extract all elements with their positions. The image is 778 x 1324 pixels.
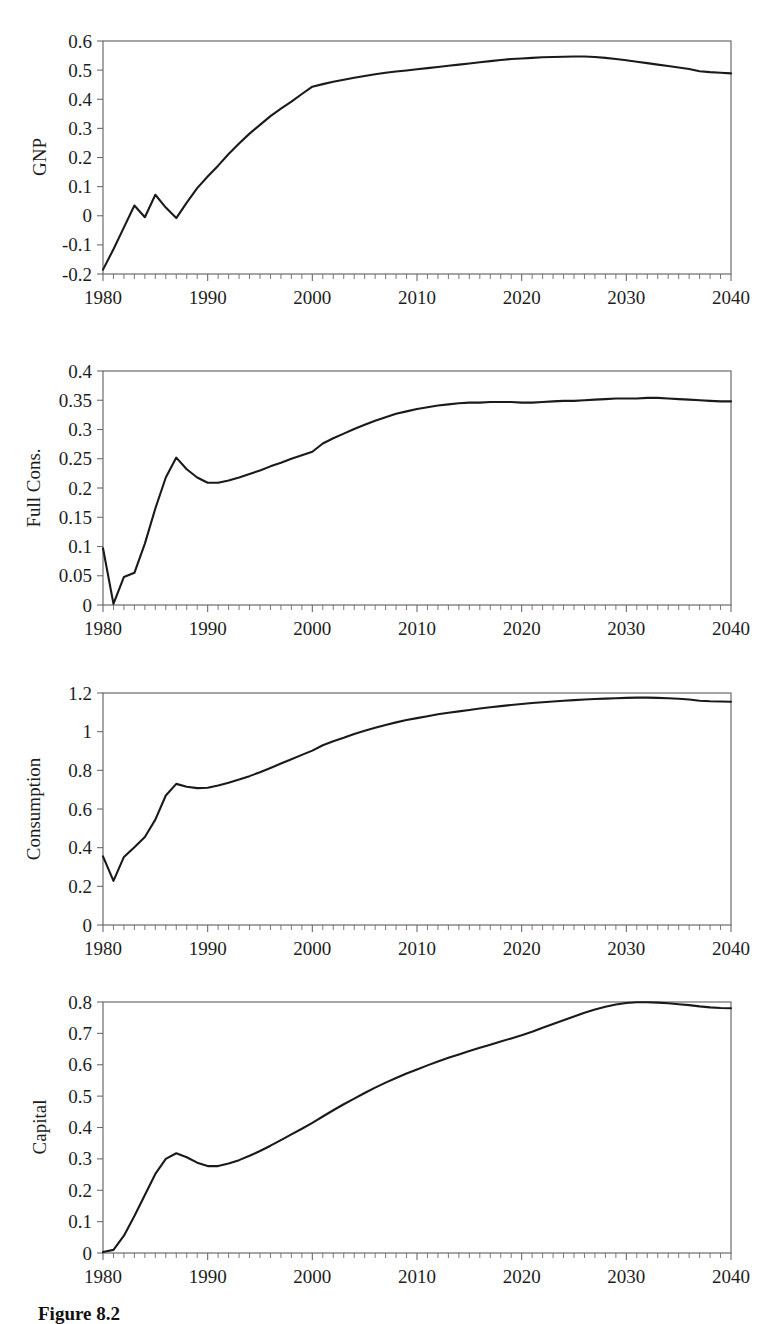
- y-tick-label: -0.1: [62, 234, 92, 255]
- x-tick-label: 2000: [293, 938, 331, 959]
- y-tick-label: 0: [83, 205, 93, 226]
- y-tick-label: 0.1: [68, 536, 92, 557]
- x-tick-label: 2010: [398, 287, 436, 308]
- y-tick-label: 0.3: [68, 118, 92, 139]
- y-tick-label: 0.2: [68, 1180, 92, 1201]
- x-axis-minor-ticks: [103, 1253, 731, 1260]
- series-line-gnp: [103, 56, 731, 269]
- y-tick-label: -0.2: [62, 264, 92, 285]
- x-tick-label: 1990: [189, 1266, 227, 1287]
- x-tick-label: 2020: [503, 287, 541, 308]
- x-tick-label: 2010: [398, 938, 436, 959]
- x-tick-label: 2000: [293, 1266, 331, 1287]
- y-tick-labels: 00.20.40.60.811.2: [68, 683, 92, 936]
- y-tick-label: 0: [83, 915, 93, 936]
- x-tick-label: 2030: [607, 1266, 645, 1287]
- x-axis-minor-ticks: [103, 274, 731, 281]
- y-tick-label: 0: [83, 595, 93, 616]
- y-axis-ticks: [97, 1002, 103, 1253]
- x-tick-labels: 1980199020002010202020302040: [84, 618, 750, 639]
- x-tick-label: 2020: [503, 938, 541, 959]
- y-axis-title: Consumption: [23, 757, 44, 860]
- y-tick-label: 0.6: [68, 31, 92, 52]
- y-axis-ticks: [97, 693, 103, 925]
- plot-frame: [103, 693, 731, 925]
- chart-svg-full-cons: 00.050.10.150.20.250.30.350.419801990200…: [0, 330, 778, 640]
- figure-caption: Figure 8.2: [38, 1303, 120, 1324]
- y-tick-label: 0.05: [59, 565, 92, 586]
- chart-panel-gnp: -0.2-0.100.10.20.30.40.50.61980199020002…: [0, 0, 778, 310]
- y-tick-label: 0.3: [68, 419, 92, 440]
- y-tick-label: 0.5: [68, 1086, 92, 1107]
- y-tick-label: 0.6: [68, 799, 92, 820]
- x-tick-label: 2030: [607, 618, 645, 639]
- y-axis-ticks: [97, 41, 103, 274]
- y-tick-label: 0.4: [68, 89, 92, 110]
- x-tick-labels: 1980199020002010202020302040: [84, 938, 750, 959]
- y-tick-label: 0.8: [68, 992, 92, 1013]
- plot-frame: [103, 41, 731, 274]
- chart-panel-full-cons: 00.050.10.150.20.250.30.350.419801990200…: [0, 330, 778, 640]
- x-tick-label: 2030: [607, 938, 645, 959]
- x-tick-label: 2020: [503, 618, 541, 639]
- plot-frame: [103, 371, 731, 605]
- x-tick-label: 1990: [189, 618, 227, 639]
- x-tick-label: 2040: [712, 618, 750, 639]
- x-tick-label: 1990: [189, 938, 227, 959]
- x-tick-labels: 1980199020002010202020302040: [84, 287, 750, 308]
- x-tick-label: 1980: [84, 618, 122, 639]
- x-tick-label: 2000: [293, 618, 331, 639]
- y-tick-label: 0.15: [59, 507, 92, 528]
- y-tick-labels: -0.2-0.100.10.20.30.40.50.6: [62, 31, 93, 285]
- y-tick-label: 0.6: [68, 1054, 92, 1075]
- y-axis-title: Capital: [29, 1100, 50, 1155]
- series-line-consumption: [103, 698, 731, 881]
- x-axis-minor-ticks: [103, 605, 731, 612]
- y-axis-ticks: [97, 371, 103, 605]
- y-tick-label: 0.2: [68, 478, 92, 499]
- y-tick-label: 1.2: [68, 683, 92, 704]
- y-axis-title: Full Cons.: [23, 448, 44, 527]
- y-tick-label: 0.35: [59, 390, 92, 411]
- chart-svg-gnp: -0.2-0.100.10.20.30.40.50.61980199020002…: [0, 0, 778, 310]
- plot-frame: [103, 1002, 731, 1253]
- x-tick-label: 2010: [398, 1266, 436, 1287]
- x-tick-label: 2020: [503, 1266, 541, 1287]
- chart-panel-consumption: 00.20.40.60.811.219801990200020102020203…: [0, 652, 778, 962]
- x-tick-label: 2000: [293, 287, 331, 308]
- x-tick-label: 2030: [607, 287, 645, 308]
- y-tick-label: 0.25: [59, 448, 92, 469]
- y-axis-title: GNP: [29, 138, 50, 176]
- x-tick-label: 1990: [189, 287, 227, 308]
- x-tick-label: 2040: [712, 938, 750, 959]
- x-tick-label: 1980: [84, 287, 122, 308]
- x-tick-label: 2010: [398, 618, 436, 639]
- series-line-capital: [103, 1002, 731, 1252]
- x-tick-label: 2040: [712, 287, 750, 308]
- y-tick-label: 0.8: [68, 760, 92, 781]
- chart-svg-consumption: 00.20.40.60.811.219801990200020102020203…: [0, 652, 778, 962]
- y-tick-label: 0.7: [68, 1023, 92, 1044]
- y-tick-labels: 00.050.10.150.20.250.30.350.4: [59, 361, 93, 616]
- y-tick-label: 0.4: [68, 361, 92, 382]
- y-tick-label: 0: [83, 1243, 93, 1264]
- x-tick-label: 2040: [712, 1266, 750, 1287]
- y-tick-label: 0.1: [68, 176, 92, 197]
- chart-svg-capital: 00.10.20.30.40.50.60.70.8198019902000201…: [0, 961, 778, 1291]
- x-tick-labels: 1980199020002010202020302040: [84, 1266, 750, 1287]
- y-tick-label: 0.5: [68, 60, 92, 81]
- x-tick-label: 1980: [84, 938, 122, 959]
- y-tick-label: 0.1: [68, 1211, 92, 1232]
- y-tick-label: 0.4: [68, 837, 92, 858]
- y-tick-labels: 00.10.20.30.40.50.60.70.8: [68, 992, 92, 1264]
- x-axis-minor-ticks: [103, 925, 731, 932]
- y-tick-label: 0.4: [68, 1117, 92, 1138]
- y-tick-label: 1: [83, 721, 93, 742]
- chart-panel-capital: 00.10.20.30.40.50.60.70.8198019902000201…: [0, 961, 778, 1291]
- y-tick-label: 0.2: [68, 876, 92, 897]
- figure-8-2: -0.2-0.100.10.20.30.40.50.61980199020002…: [0, 0, 778, 1324]
- x-tick-label: 1980: [84, 1266, 122, 1287]
- y-tick-label: 0.3: [68, 1148, 92, 1169]
- y-tick-label: 0.2: [68, 147, 92, 168]
- series-line-full-cons: [103, 398, 731, 604]
